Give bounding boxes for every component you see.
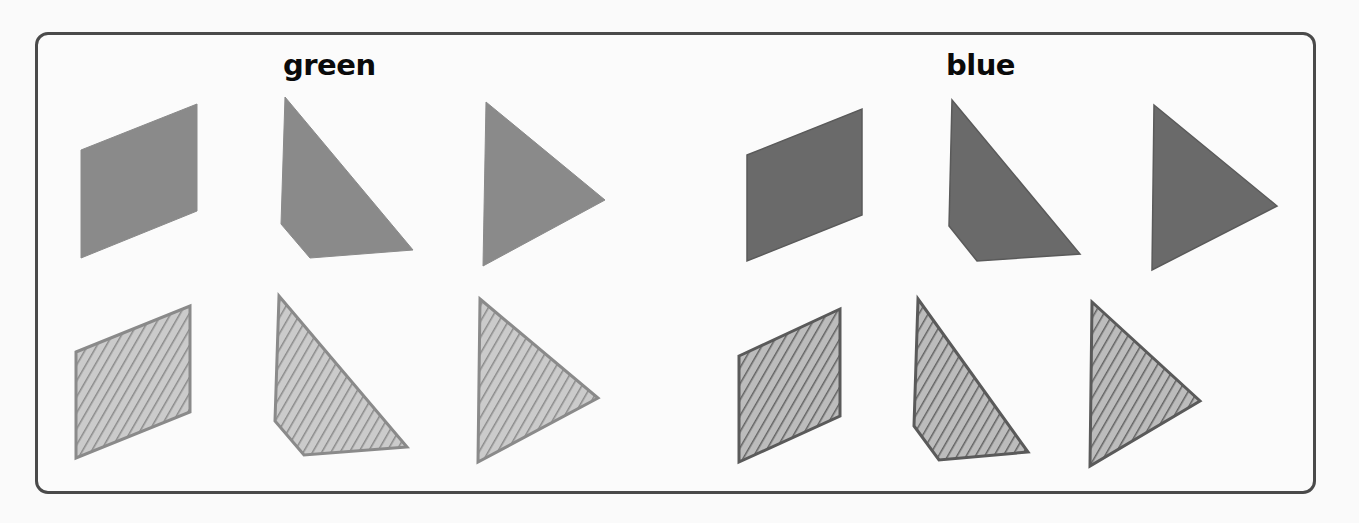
blue-hatched-parallelogram xyxy=(739,309,840,462)
shapes-canvas xyxy=(0,0,1359,523)
green-solid-quadrilateral xyxy=(281,97,413,258)
blue-solid-quadrilateral xyxy=(949,100,1080,261)
green-solid-parallelogram xyxy=(81,104,197,258)
green-hatched-triangle xyxy=(478,299,598,462)
blue-hatched-quadrilateral xyxy=(914,299,1028,460)
blue-solid-parallelogram xyxy=(747,109,862,261)
blue-hatched-triangle xyxy=(1090,302,1200,466)
blue-solid-triangle xyxy=(1152,105,1277,270)
green-hatched-quadrilateral xyxy=(275,296,407,455)
green-hatched-parallelogram xyxy=(76,306,190,458)
green-solid-triangle xyxy=(483,102,605,266)
